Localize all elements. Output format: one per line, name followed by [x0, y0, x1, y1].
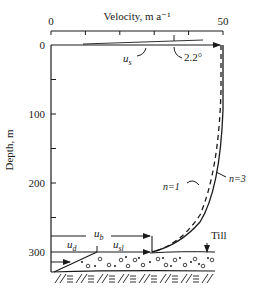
profile-n1 — [152, 45, 221, 252]
till-label: Till — [211, 229, 227, 241]
depth-axis-label: Depth, m — [3, 129, 15, 170]
n1-label: n=1 — [163, 181, 180, 192]
depth-tick-200: 200 — [29, 177, 46, 189]
surface: us 2.2° — [51, 35, 220, 67]
depth-tick-100: 100 — [29, 108, 46, 120]
velocity-axis: Velocity, m a⁻¹ 0 50 — [48, 10, 229, 35]
velocity-tick-50: 50 — [218, 15, 230, 27]
till-layer: Till — [51, 229, 227, 283]
ud-label: ud — [67, 238, 78, 253]
usl-label: usl — [113, 238, 125, 253]
slope-angle-label: 2.2° — [184, 51, 202, 63]
velocity-tick-0: 0 — [48, 15, 54, 27]
bedrock-hatching — [55, 274, 213, 283]
velocity-axis-label: Velocity, m a⁻¹ — [104, 10, 171, 22]
depth-axis: Depth, m 0 100 200 300 — [3, 39, 56, 272]
profile-n3 — [152, 45, 223, 252]
depth-tick-300: 300 — [29, 246, 46, 258]
us-label: us — [123, 52, 132, 67]
basal-arrows: ub ud usl — [51, 227, 152, 272]
velocity-profiles: n=1 n=3 — [152, 45, 246, 252]
glacier-velocity-diagram: Velocity, m a⁻¹ 0 50 Depth, m 0 100 200 … — [0, 0, 259, 290]
ub-label: ub — [94, 227, 104, 242]
n3-label: n=3 — [229, 173, 246, 184]
depth-tick-0: 0 — [40, 39, 46, 51]
